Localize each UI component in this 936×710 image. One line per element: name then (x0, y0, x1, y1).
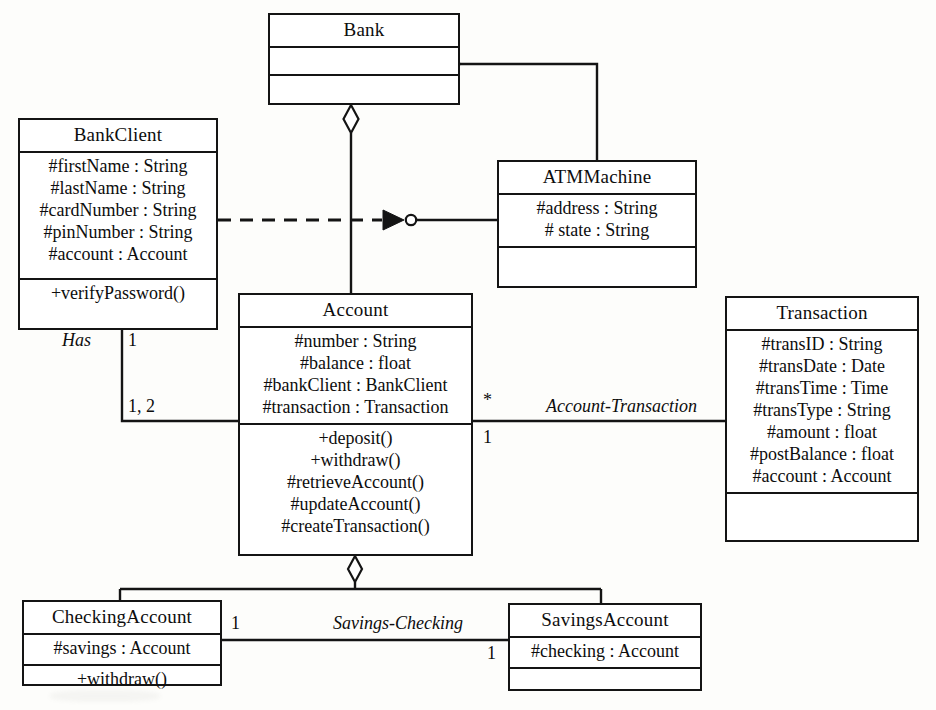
attribute-row: #lastName : String (26, 178, 210, 200)
association-label-savings-checking: Savings-Checking (333, 613, 463, 634)
operation-row: #createTransaction() (246, 516, 465, 538)
operation-row: +withdraw() (246, 450, 465, 472)
attribute-row: #bankClient : BankClient (246, 375, 465, 397)
class-box-account[interactable]: Account #number : String #balance : floa… (238, 293, 473, 556)
multiplicity-has-target: 1, 2 (128, 396, 155, 417)
class-box-atmmachine[interactable]: ATMMachine #address : String # state : S… (497, 160, 697, 288)
class-name-transaction: Transaction (727, 298, 917, 329)
attribute-spacer (26, 266, 210, 274)
attribute-row: #postBalance : float (733, 444, 911, 466)
attribute-row: #transType : String (733, 400, 911, 422)
edge-account-subaccounts-aggregation (120, 556, 601, 603)
multiplicity-has-source: 1 (128, 330, 137, 351)
attribute-row: #amount : float (733, 422, 911, 444)
class-box-bankclient[interactable]: BankClient #firstName : String #lastName… (18, 118, 218, 330)
attribute-row: #account : Account (26, 244, 210, 266)
attribute-row: #savings : Account (30, 638, 214, 660)
class-box-bank[interactable]: Bank (268, 13, 460, 105)
attribute-row: #account : Account (733, 466, 911, 488)
class-operations-transaction (727, 492, 917, 522)
association-label-account-transaction: Account-Transaction (546, 396, 697, 417)
multiplicity-account-transaction-target: 1 (483, 427, 492, 448)
association-label-has: Has (62, 330, 91, 351)
multiplicity-savings-checking-source: 1 (231, 613, 240, 634)
class-operations-atmmachine (499, 246, 695, 274)
operation-row: +withdraw() (30, 669, 214, 691)
class-name-checkingaccount: CheckingAccount (24, 602, 220, 633)
operation-row: #retrieveAccount() (246, 472, 465, 494)
class-box-savingsaccount[interactable]: SavingsAccount #checking : Account (508, 603, 702, 691)
attribute-row: #number : String (246, 331, 465, 353)
attribute-row: #checking : Account (516, 641, 694, 663)
class-attributes-bankclient: #firstName : String #lastName : String #… (20, 151, 216, 278)
class-box-transaction[interactable]: Transaction #transID : String #transDate… (725, 296, 919, 542)
class-attributes-savingsaccount: #checking : Account (510, 636, 700, 667)
uml-class-diagram-canvas: ATMMachine : dashed dependency with ball… (0, 0, 936, 710)
class-attributes-atmmachine: #address : String # state : String (499, 193, 695, 246)
attribute-row: #transID : String (733, 334, 911, 356)
multiplicity-account-transaction-source: * (483, 390, 492, 411)
class-attributes-bank (270, 46, 458, 74)
edge-bankclient-atmmachine-dependency (218, 210, 497, 230)
attribute-row: # state : String (505, 220, 689, 242)
class-attributes-transaction: #transID : String #transDate : Date #tra… (727, 329, 917, 492)
multiplicity-savings-checking-target: 1 (487, 643, 496, 664)
class-attributes-account: #number : String #balance : float #bankC… (240, 326, 471, 423)
edge-bank-atmmachine-aggregation (443, 57, 597, 160)
class-operations-checkingaccount: +withdraw() (24, 664, 220, 695)
attribute-row: #pinNumber : String (26, 222, 210, 244)
edge-bank-account-aggregation (344, 105, 359, 293)
operation-row: #updateAccount() (246, 494, 465, 516)
class-operations-savingsaccount (510, 667, 700, 695)
attribute-row: #firstName : String (26, 156, 210, 178)
class-operations-bankclient: +verifyPassword() (20, 278, 216, 309)
attribute-row: #cardNumber : String (26, 200, 210, 222)
class-name-account: Account (240, 295, 471, 326)
operation-row: +deposit() (246, 428, 465, 450)
class-box-checkingaccount[interactable]: CheckingAccount #savings : Account +with… (22, 600, 222, 686)
class-operations-account: +deposit() +withdraw() #retrieveAccount(… (240, 423, 471, 542)
operation-row: +verifyPassword() (26, 283, 210, 305)
attribute-row: #transDate : Date (733, 356, 911, 378)
class-name-savingsaccount: SavingsAccount (510, 605, 700, 636)
attribute-row: #transTime : Time (733, 378, 911, 400)
class-name-bankclient: BankClient (20, 120, 216, 151)
attribute-row: #balance : float (246, 353, 465, 375)
class-name-bank: Bank (270, 15, 458, 46)
class-name-atmmachine: ATMMachine (499, 162, 695, 193)
class-attributes-checkingaccount: #savings : Account (24, 633, 220, 664)
attribute-row: #address : String (505, 198, 689, 220)
attribute-row: #transaction : Transaction (246, 397, 465, 419)
class-operations-bank (270, 74, 458, 104)
